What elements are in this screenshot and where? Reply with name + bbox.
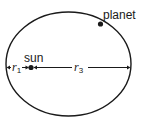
orbit-diagram: planet sun r1 r3 xyxy=(0,0,144,121)
r3-label: r3 xyxy=(74,60,84,75)
planet-dot xyxy=(98,21,103,26)
sun-label: sun xyxy=(24,51,43,65)
planet-label: planet xyxy=(103,8,136,22)
r1-label: r1 xyxy=(12,60,22,75)
sun-dot xyxy=(28,65,33,70)
